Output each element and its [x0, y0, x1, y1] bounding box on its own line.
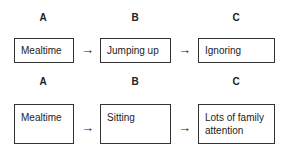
antecedent-box: Mealtime: [14, 104, 74, 144]
arrow-icon: →: [178, 121, 191, 134]
consequence-box: Ignoring: [198, 38, 275, 63]
header-a: A: [33, 12, 53, 23]
behavior-text: Jumping up: [107, 44, 159, 57]
header-c: C: [226, 76, 246, 87]
consequence-text: Lots of family attention: [205, 112, 264, 136]
consequence-box: Lots of family attention: [198, 104, 275, 144]
arrow-icon: →: [81, 43, 94, 56]
header-a: A: [33, 76, 53, 87]
arrow-icon: →: [81, 121, 94, 134]
behavior-box: Sitting: [100, 104, 171, 144]
antecedent-box: Mealtime: [14, 38, 74, 63]
behavior-box: Jumping up: [100, 38, 171, 63]
antecedent-text: Mealtime: [21, 44, 62, 57]
consequence-text: Ignoring: [205, 44, 241, 57]
behavior-text: Sitting: [107, 112, 135, 123]
header-c: C: [226, 12, 246, 23]
antecedent-text: Mealtime: [21, 112, 62, 123]
arrow-icon: →: [178, 43, 191, 56]
header-b: B: [125, 12, 145, 23]
header-b: B: [125, 76, 145, 87]
